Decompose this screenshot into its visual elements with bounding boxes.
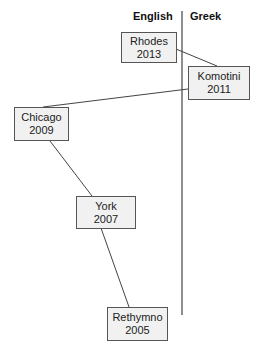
- node-chicago: Chicago 2009: [14, 107, 69, 141]
- node-year: 2009: [29, 124, 53, 137]
- node-york: York 2007: [76, 196, 136, 229]
- node-city: Rethymno: [112, 311, 162, 324]
- node-rethymno: Rethymno 2005: [107, 307, 168, 341]
- node-year: 2013: [137, 48, 161, 61]
- node-city: Komotini: [198, 70, 241, 83]
- node-year: 2007: [94, 213, 118, 226]
- node-city: York: [95, 200, 117, 213]
- column-heading-greek: Greek: [190, 9, 221, 23]
- node-rhodes: Rhodes 2013: [121, 32, 177, 63]
- node-year: 2011: [207, 83, 231, 96]
- node-city: Chicago: [21, 111, 61, 124]
- edge-chicago-york: [50, 141, 92, 196]
- edge-komotini-chicago: [43, 89, 188, 107]
- timeline-diagram: English Greek Rhodes 2013 Komotini 2011 …: [0, 0, 265, 354]
- node-year: 2005: [125, 324, 149, 337]
- node-city: Rhodes: [130, 35, 168, 48]
- edge-york-rethymno: [101, 228, 129, 307]
- node-komotini: Komotini 2011: [188, 66, 250, 100]
- column-heading-english: English: [133, 9, 173, 23]
